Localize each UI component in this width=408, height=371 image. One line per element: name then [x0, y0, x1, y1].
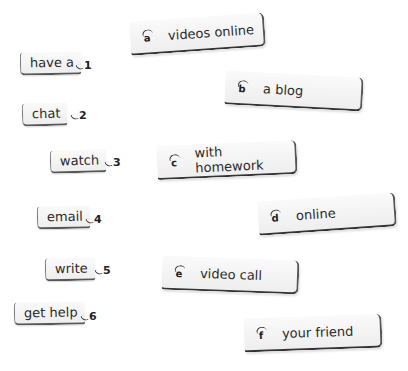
- connector-arc-icon: [237, 80, 249, 87]
- word-tag-label: get help: [24, 305, 78, 321]
- word-tag-3[interactable]: watch: [50, 149, 107, 173]
- number-badge-6: 6: [81, 310, 97, 323]
- connector-tick-icon: [104, 160, 112, 168]
- number-badge-4: 4: [86, 213, 102, 226]
- letter-badge-a: a: [140, 29, 155, 44]
- phrase-card-f[interactable]: f your friend: [243, 314, 382, 353]
- connector-tick-icon: [80, 314, 88, 322]
- connector-arc-icon: [168, 153, 180, 161]
- letter-badge-e: e: [172, 265, 186, 279]
- number-badge-3: 3: [105, 156, 121, 169]
- phrase-card-e[interactable]: e video call: [161, 256, 299, 295]
- word-tag-4[interactable]: email: [37, 206, 90, 230]
- phrase-label: your friend: [282, 323, 354, 340]
- phrase-card-b[interactable]: b a blog: [224, 70, 364, 111]
- word-tag-label: chat: [32, 106, 61, 122]
- connector-arc-icon: [173, 264, 185, 271]
- phrase-label: a blog: [263, 81, 304, 98]
- phrase-card-d[interactable]: d online: [257, 192, 397, 236]
- connector-arc-icon: [141, 28, 153, 36]
- letter-badge-b: b: [235, 80, 250, 95]
- word-tag-label: watch: [60, 152, 99, 168]
- phrase-label: with homework: [194, 141, 295, 175]
- connector-tick-icon: [85, 217, 93, 225]
- connector-arc-icon: [269, 208, 281, 216]
- connector-tick-icon: [70, 113, 78, 121]
- number-badge-2: 2: [71, 109, 87, 122]
- word-tag-1[interactable]: have a: [20, 51, 81, 75]
- phrase-label: video call: [200, 265, 262, 282]
- letter-badge-f: f: [254, 327, 268, 341]
- word-tag-2[interactable]: chat: [22, 102, 68, 126]
- letter-badge-d: d: [268, 209, 283, 224]
- number-badge-1: 1: [76, 59, 92, 72]
- connector-arc-icon: [255, 326, 267, 334]
- word-tag-5[interactable]: write: [45, 258, 95, 282]
- number-badge-5: 5: [95, 264, 111, 277]
- word-tag-label: have a: [30, 55, 74, 71]
- phrase-label: online: [295, 205, 336, 223]
- word-tag-label: write: [55, 261, 88, 277]
- phrase-card-c[interactable]: c with homework: [156, 140, 297, 180]
- connector-tick-icon: [75, 63, 83, 71]
- word-tag-label: email: [47, 209, 83, 225]
- letter-badge-c: c: [167, 154, 182, 169]
- phrase-card-a[interactable]: a videos online: [129, 12, 266, 55]
- word-tag-6[interactable]: get help: [14, 301, 85, 325]
- connector-tick-icon: [94, 268, 102, 276]
- phrase-label: videos online: [167, 22, 254, 43]
